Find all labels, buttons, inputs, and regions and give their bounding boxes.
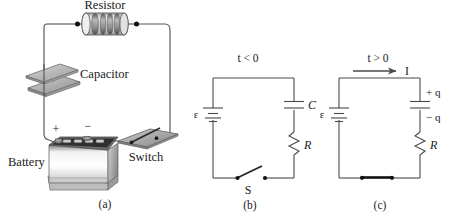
switch-label: Switch bbox=[129, 150, 164, 164]
capacitor-positive-charge-label: + q bbox=[426, 86, 441, 98]
resistor-pictorial bbox=[75, 13, 139, 35]
panel-b-capacitor-label: C bbox=[308, 98, 317, 112]
panel-b-capacitor-symbol bbox=[284, 102, 304, 109]
figure-canvas: Resistor Capacitor bbox=[0, 0, 455, 222]
battery-minus-label: − bbox=[85, 119, 92, 133]
panel-b-resistor-symbol bbox=[289, 132, 299, 158]
battery-pictorial bbox=[48, 136, 118, 190]
panel-c-switch-symbol[interactable] bbox=[360, 176, 394, 180]
resistor-label: Resistor bbox=[85, 0, 127, 12]
panel-c-resistor-symbol bbox=[415, 132, 425, 158]
battery-plus-label: + bbox=[53, 122, 60, 136]
battery-positive-terminal bbox=[55, 139, 63, 143]
panel-b: t < 0 ε C R bbox=[194, 52, 317, 212]
panel-a-caption: (a) bbox=[99, 198, 112, 211]
junction-dot-right bbox=[134, 22, 139, 27]
panel-c-current-label: I bbox=[405, 64, 409, 78]
panel-b-wiring bbox=[213, 78, 294, 178]
battery-label: Battery bbox=[8, 155, 46, 169]
panel-c-caption: (c) bbox=[374, 199, 387, 212]
junction-dot-left bbox=[75, 22, 80, 27]
rc-circuit-figure: Resistor Capacitor bbox=[0, 0, 455, 222]
panel-b-switch-symbol[interactable] bbox=[235, 166, 267, 180]
panel-c-wiring bbox=[339, 78, 420, 178]
panel-b-emf-label: ε bbox=[194, 108, 199, 120]
capacitor-negative-charge-label: − q bbox=[426, 111, 441, 123]
panel-b-caption: (b) bbox=[243, 199, 257, 212]
battery-negative-terminal bbox=[83, 136, 91, 140]
panel-a: Resistor Capacitor bbox=[8, 0, 178, 211]
panel-b-switch-label: S bbox=[245, 183, 252, 197]
capacitor-label: Capacitor bbox=[80, 67, 129, 81]
panel-b-emf-symbol bbox=[203, 108, 223, 122]
panel-c-emf-label: ε bbox=[320, 108, 325, 120]
panel-b-resistor-label: R bbox=[303, 138, 312, 152]
panel-c-emf-symbol bbox=[329, 108, 349, 122]
capacitor-pictorial bbox=[26, 64, 80, 97]
panel-c-capacitor-symbol bbox=[410, 102, 430, 109]
panel-c: t > 0 I ε + q − bbox=[320, 52, 441, 212]
panel-c-resistor-label: R bbox=[429, 138, 438, 152]
switch-pictorial bbox=[118, 128, 178, 149]
panel-c-time-label: t > 0 bbox=[367, 52, 388, 64]
panel-b-time-label: t < 0 bbox=[237, 52, 258, 64]
